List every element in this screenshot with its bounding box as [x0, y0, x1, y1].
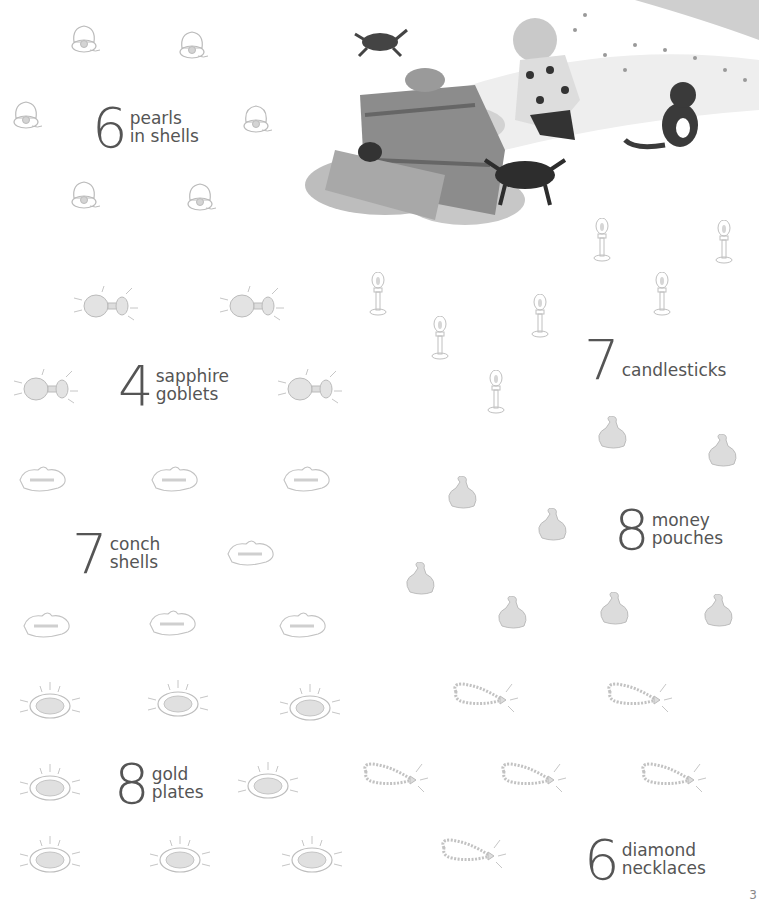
money-pouch-icon [534, 508, 570, 544]
goblet-icon [218, 282, 288, 322]
count-goblets: 4 [118, 358, 154, 414]
goblet-icon [276, 365, 346, 405]
goblet-icon [12, 365, 82, 405]
money-pouch-icon [402, 562, 438, 598]
pearl-shell-icon [68, 22, 104, 58]
diamond-necklace-icon [452, 682, 522, 716]
count-conch: 7 [72, 526, 108, 582]
money-pouch-icon [444, 476, 480, 512]
candlestick-icon [368, 272, 388, 318]
label-candlesticks: 7 candlesticks [584, 332, 726, 388]
label-pearls: 6 pearlsin shells [92, 100, 199, 156]
count-pearls: 6 [92, 100, 128, 156]
pearl-shell-icon [10, 98, 46, 134]
count-candlesticks: 7 [584, 332, 620, 388]
conch-shell-icon [22, 608, 78, 644]
treasure-chest-illustration [305, 0, 759, 255]
label-conch: 7 conchshells [72, 526, 160, 582]
goblet-icon [72, 282, 142, 322]
conch-shell-icon [148, 606, 204, 642]
gold-plate-icon [236, 762, 306, 802]
money-pouch-icon [594, 416, 630, 452]
candlestick-icon [486, 370, 506, 416]
count-necklaces: 6 [584, 832, 620, 888]
gold-plate-icon [280, 836, 350, 876]
money-pouch-icon [704, 434, 740, 470]
label-line: pouches [652, 530, 723, 548]
candlestick-icon [714, 220, 734, 266]
count-pouches: 8 [614, 502, 650, 558]
conch-shell-icon [226, 536, 282, 572]
label-line: shells [110, 554, 161, 572]
label-plates: 8 goldplates [114, 756, 204, 812]
label-line: goblets [156, 386, 229, 404]
candlestick-icon [652, 272, 672, 318]
gold-plate-icon [18, 764, 88, 804]
diamond-necklace-icon [500, 762, 570, 796]
pearl-shell-icon [68, 178, 104, 214]
page-number: 3 [749, 888, 757, 902]
money-pouch-icon [596, 592, 632, 628]
diamond-necklace-icon [606, 682, 676, 716]
pearl-shell-icon [184, 180, 220, 216]
diamond-necklace-icon [640, 762, 710, 796]
gold-plate-icon [148, 836, 218, 876]
conch-shell-icon [150, 462, 206, 498]
money-pouch-icon [494, 596, 530, 632]
candlestick-icon [592, 218, 612, 264]
label-pouches: 8 moneypouches [614, 502, 723, 558]
candlestick-icon [530, 294, 550, 340]
label-line: in shells [130, 128, 199, 146]
conch-shell-icon [278, 608, 334, 644]
gold-plate-icon [18, 836, 88, 876]
conch-shell-icon [282, 462, 338, 498]
label-line: necklaces [622, 860, 706, 878]
gold-plate-icon [278, 684, 348, 724]
count-plates: 8 [114, 756, 150, 812]
label-line: plates [152, 784, 204, 802]
money-pouch-icon [700, 594, 736, 630]
label-necklaces: 6 diamondnecklaces [584, 832, 706, 888]
conch-shell-icon [18, 462, 74, 498]
candlestick-icon [430, 316, 450, 362]
diamond-necklace-icon [362, 762, 432, 796]
pearl-shell-icon [240, 102, 276, 138]
label-goblets: 4 sapphiregoblets [118, 358, 229, 414]
gold-plate-icon [146, 680, 216, 720]
gold-plate-icon [18, 682, 88, 722]
pearl-shell-icon [176, 28, 212, 64]
diamond-necklace-icon [440, 838, 510, 872]
label-line: candlesticks [622, 362, 727, 380]
